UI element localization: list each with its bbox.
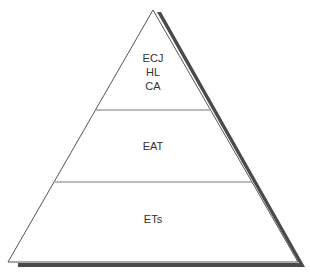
level-top-line-3: CA: [145, 80, 160, 93]
pyramid-diagram: [0, 0, 310, 274]
level-middle-label: EAT: [143, 140, 164, 153]
level-top-line-2: HL: [146, 66, 160, 79]
level-top-line-1: ECJ: [143, 52, 164, 65]
level-bottom-label: ETs: [144, 213, 162, 226]
